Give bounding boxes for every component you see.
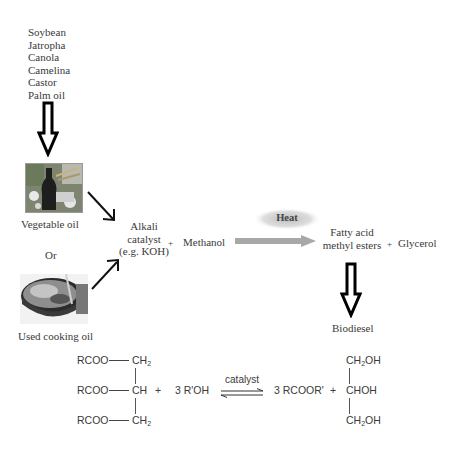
frying-pan-photo xyxy=(20,274,88,324)
feedstock-canola: Canola xyxy=(28,51,70,64)
feedstock-camelina: Camelina xyxy=(28,64,70,77)
methanol-label: Methanol xyxy=(183,236,225,249)
plus-sign-eq2: + xyxy=(330,384,336,396)
triglyceride-formula: RCOO CH2 RCOO CH RCOO CH2 xyxy=(77,354,167,444)
feedstock-jatropha: Jatropha xyxy=(28,39,70,52)
feedstock-palm-oil: Palm oil xyxy=(28,89,70,102)
biodiesel-label: Biodiesel xyxy=(332,322,374,335)
feedstock-castor: Castor xyxy=(28,76,70,89)
vegetable-oil-photo xyxy=(25,163,83,213)
heat-label: Heat xyxy=(262,212,312,225)
feedstock-soybean: Soybean xyxy=(28,26,70,39)
glycerol-label: Glycerol xyxy=(398,237,436,250)
feedstock-list: Soybean Jatropha Canola Camelina Castor … xyxy=(28,26,70,101)
down-arrow-icon xyxy=(37,101,59,157)
plus-sign-eq1: + xyxy=(155,384,161,396)
plus-sign-products: + xyxy=(387,238,392,251)
arrow-veg-to-catalyst-icon xyxy=(86,190,118,224)
plus-sign: + xyxy=(168,237,173,250)
equilibrium-arrow-icon xyxy=(219,388,265,398)
glycerol-formula: CH2OH CHOH CH2OH xyxy=(346,354,406,444)
ester-formula: 3 RCOOR' xyxy=(274,384,324,396)
equilibrium-label: catalyst xyxy=(220,374,264,385)
arrow-used-oil-to-catalyst-icon xyxy=(90,257,122,291)
or-label: Or xyxy=(45,249,57,262)
alcohol-formula: 3 R'OH xyxy=(175,384,209,396)
process-arrow-icon xyxy=(235,234,317,248)
used-cooking-oil-label: Used cooking oil xyxy=(18,330,93,343)
down-arrow-biodiesel-icon xyxy=(340,262,362,318)
vegetable-oil-label: Vegetable oil xyxy=(21,218,79,231)
fame-label: Fatty acid methyl esters xyxy=(314,226,390,251)
alkali-catalyst-label: Alkali catalyst (e.g. KOH) xyxy=(112,220,176,258)
